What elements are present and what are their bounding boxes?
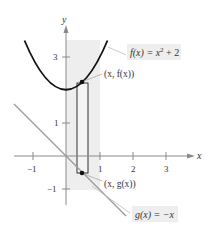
f-label: f(x) = x2 + 2	[130, 46, 179, 59]
y-tick-label: 3	[53, 52, 58, 62]
leader-line-f-label	[108, 47, 126, 55]
area-between-curves-figure: x y −1 1 2 3 3 1 −1 (x, f(x)) (x, g(x)) …	[0, 0, 210, 229]
x-tick-label: −1	[27, 164, 37, 174]
point-f	[80, 80, 85, 85]
y-axis-label: y	[61, 14, 67, 25]
x-axis-arrow-icon	[187, 154, 195, 159]
y-axis-arrow-icon	[64, 25, 69, 33]
x-tick-label: 1	[98, 164, 103, 174]
x-axis-label: x	[196, 150, 202, 161]
leader-line-g-label	[92, 186, 130, 213]
x-tick-label: 2	[131, 164, 136, 174]
y-tick-label: 1	[54, 118, 59, 128]
point-g-label: (x, g(x))	[104, 179, 136, 190]
g-label: g(x) = −x	[135, 209, 175, 221]
x-tick-label: 3	[164, 164, 169, 174]
point-g	[80, 171, 85, 176]
point-f-label: (x, f(x))	[104, 69, 134, 80]
y-tick-label: −1	[47, 184, 57, 194]
representative-rectangle	[77, 83, 88, 173]
